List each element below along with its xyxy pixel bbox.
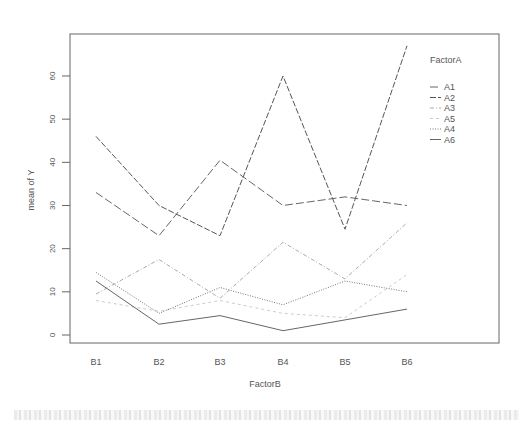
series-line-a1 xyxy=(96,160,407,236)
series-lines xyxy=(96,46,407,331)
legend: FactorA A1A2A3A5A4A6 xyxy=(430,55,462,145)
x-tick-label: B5 xyxy=(339,357,350,367)
x-tick-label: B1 xyxy=(90,357,101,367)
series-line-a3 xyxy=(96,223,407,298)
y-tick-label: 0 xyxy=(48,332,57,337)
x-tick-label: B3 xyxy=(214,357,225,367)
y-axis-label: mean of Y xyxy=(26,170,36,211)
legend-label: A1 xyxy=(444,82,455,92)
series-line-a2 xyxy=(96,46,407,236)
y-tick-label: 60 xyxy=(48,71,57,80)
interaction-plot: 0102030405060 B1B2B3B4B5B6 FactorB mean … xyxy=(0,0,520,410)
legend-label: A5 xyxy=(444,114,455,124)
y-tick-label: 50 xyxy=(48,114,57,123)
y-tick-label: 20 xyxy=(48,244,57,253)
legend-label: A2 xyxy=(444,93,455,103)
y-tick-label: 40 xyxy=(48,157,57,166)
legend-title: FactorA xyxy=(430,55,462,65)
y-axis: 0102030405060 xyxy=(48,71,70,337)
legend-label: A3 xyxy=(444,103,455,113)
x-tick-label: B4 xyxy=(277,357,288,367)
series-line-a6 xyxy=(96,281,407,331)
legend-label: A6 xyxy=(444,135,455,145)
scan-artifact-strip xyxy=(14,410,519,420)
series-line-a5 xyxy=(96,275,407,318)
x-tick-label: B2 xyxy=(153,357,164,367)
x-axis-label: FactorB xyxy=(249,379,281,389)
x-tick-label: B6 xyxy=(401,357,412,367)
y-tick-label: 10 xyxy=(48,287,57,296)
y-tick-label: 30 xyxy=(48,200,57,209)
x-axis: B1B2B3B4B5B6 xyxy=(90,357,412,367)
legend-label: A4 xyxy=(444,124,455,134)
